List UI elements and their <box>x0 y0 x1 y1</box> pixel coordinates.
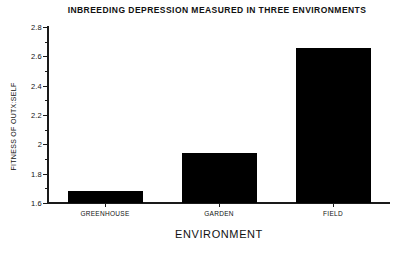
y-tick-mark <box>43 56 48 57</box>
x-tick-mark <box>105 203 106 207</box>
y-tick-mark <box>43 115 48 116</box>
y-tick-mark <box>43 144 48 145</box>
y-tick-label: 2.8 <box>31 23 42 32</box>
plot-area: 2.82.62.42.221.81.6 GREENHOUSEGARDENFIEL… <box>48 27 390 203</box>
x-tick-mark <box>219 203 220 207</box>
x-axis-title: ENVIRONMENT <box>48 228 390 240</box>
bar-chart-figure: INBREEDING DEPRESSION MEASURED IN THREE … <box>0 0 400 256</box>
y-tick-label: 1.6 <box>31 199 42 208</box>
y-tick-label: 2.6 <box>31 52 42 61</box>
chart-title: INBREEDING DEPRESSION MEASURED IN THREE … <box>52 5 382 15</box>
x-tick-label: FIELD <box>323 210 343 217</box>
x-tick-label: GARDEN <box>204 210 234 217</box>
y-minor-tick-mark <box>45 159 48 160</box>
y-minor-tick-mark <box>45 42 48 43</box>
y-tick-label: 2.4 <box>31 81 42 90</box>
x-tick-label: GREENHOUSE <box>80 210 129 217</box>
y-tick-mark <box>43 203 48 204</box>
bar <box>296 48 371 203</box>
bar <box>182 153 257 203</box>
y-minor-tick-mark <box>45 100 48 101</box>
y-minor-tick-mark <box>45 130 48 131</box>
y-tick-label: 2 <box>38 140 42 149</box>
y-tick-mark <box>43 27 48 28</box>
y-minor-tick-mark <box>45 188 48 189</box>
x-tick-mark <box>333 203 334 207</box>
y-tick-mark <box>43 174 48 175</box>
y-tick-mark <box>43 86 48 87</box>
y-tick-label: 1.8 <box>31 169 42 178</box>
bar <box>68 191 143 203</box>
y-axis-title: FITNESS OF OUTX:SELF <box>10 67 17 187</box>
y-minor-tick-mark <box>45 71 48 72</box>
y-tick-label: 2.2 <box>31 111 42 120</box>
